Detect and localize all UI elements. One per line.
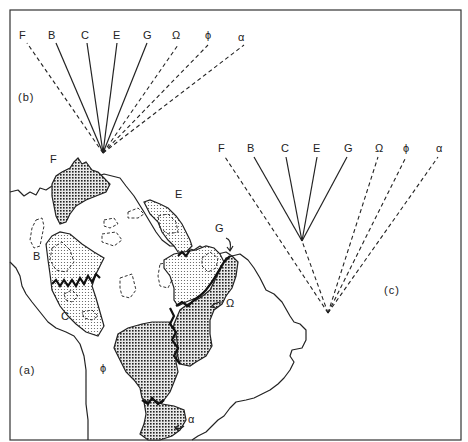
map-label-omega: Ω — [226, 297, 234, 309]
tip-label-b-4: G — [143, 29, 152, 41]
map-a: F B E G C Ω ϕ α (a) — [10, 153, 306, 440]
area-B-dashed — [30, 218, 44, 248]
panel-label-b: (b) — [18, 91, 34, 103]
cladogram-b: F B C E G Ω ϕ α (b) — [18, 29, 245, 153]
lake-3 — [102, 232, 122, 246]
tip-label-c-5: Ω — [375, 142, 383, 154]
map-label-C: C — [61, 310, 69, 322]
cladogram-c: F B C E G Ω ϕ α (c) — [218, 142, 443, 313]
arrow-G — [226, 238, 233, 251]
tip-label-b-2: C — [81, 29, 89, 41]
tip-label-b-1: B — [48, 29, 55, 41]
map-label-B: B — [33, 250, 40, 262]
tip-label-c-3: E — [313, 142, 320, 154]
area-F-shading — [52, 158, 110, 224]
lake-1 — [128, 208, 144, 218]
tip-label-c-6: ϕ — [403, 142, 409, 154]
area-phi-shading — [114, 322, 178, 406]
tip-label-c-7: α — [436, 142, 443, 154]
lake-4 — [120, 274, 136, 298]
map-label-alpha: α — [188, 413, 195, 425]
tip-label-c-0: F — [218, 142, 225, 154]
tip-label-b-0: F — [19, 29, 26, 41]
tip-label-c-4: G — [344, 142, 353, 154]
map-label-G: G — [215, 222, 224, 234]
map-label-F: F — [50, 153, 57, 165]
area-alpha-shading — [140, 400, 186, 440]
map-label-E: E — [175, 188, 182, 200]
figure: F B C E G Ω ϕ α (b) F B C E G Ω ϕ α (c) — [0, 0, 468, 442]
diagram-canvas: F B C E G Ω ϕ α (b) F B C E G Ω ϕ α (c) — [0, 0, 468, 442]
panel-label-c: (c) — [384, 284, 400, 296]
tip-label-b-3: E — [113, 29, 120, 41]
figure-frame — [10, 10, 461, 440]
map-label-phi: ϕ — [100, 362, 106, 374]
tip-label-b-7: α — [238, 31, 245, 43]
tip-label-b-5: Ω — [172, 29, 180, 41]
tip-label-c-2: C — [281, 142, 289, 154]
tip-label-b-6: ϕ — [205, 29, 211, 41]
panel-label-a: (a) — [19, 364, 35, 376]
lake-2 — [104, 218, 118, 228]
tip-label-c-1: B — [247, 142, 254, 154]
